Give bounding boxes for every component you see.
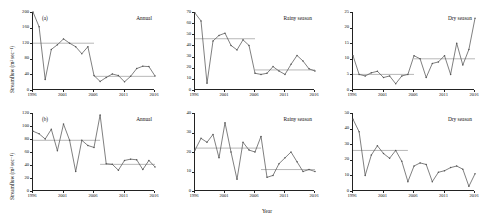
data-point [407,181,409,183]
data-point [462,168,464,170]
y-tick-mark [350,144,352,145]
data-point [389,157,391,159]
data-point [383,153,385,155]
plot-area-b-dry [352,113,474,191]
x-tick-label: 2006 [404,194,422,199]
x-tick-label: 2016 [465,194,483,199]
x-tick-label: 1996 [343,194,361,199]
data-point [474,173,476,175]
y-tick-mark [350,160,352,161]
data-point [395,150,397,152]
y-tick-label: 10 [330,173,349,178]
y-tick-label: 50 [330,111,349,116]
x-tick-label: 2001 [374,194,392,199]
data-point [401,161,403,163]
series-svg-b-dry [353,113,475,191]
data-point [371,154,373,156]
data-point [358,131,360,133]
data-point [413,165,415,167]
y-tick-label: 30 [330,142,349,147]
y-tick-mark [350,175,352,176]
data-point [425,164,427,166]
data-point [377,145,379,147]
panel-title-b-dry: Dry season [448,116,472,122]
data-line-b-dry [353,119,475,186]
x-tick-label: 2011 [435,194,453,199]
data-point [456,165,458,167]
y-tick-label: 20 [330,157,349,162]
data-point [364,175,366,177]
data-point [419,162,421,164]
data-point [352,118,354,120]
data-point [438,172,440,174]
data-point [444,170,446,172]
y-tick-mark [350,129,352,130]
chart-panel-b-dry: 0102030405019962001200620112016Dry seaso… [0,0,497,221]
y-tick-label: 40 [330,126,349,131]
data-point [468,186,470,188]
streamflow-figure: Streamflow (m³ sec⁻¹) Streamflow (m³ sec… [0,0,497,221]
y-tick-label: 0 [330,189,349,194]
y-tick-mark [350,113,352,114]
data-point [450,167,452,169]
data-point [432,181,434,183]
